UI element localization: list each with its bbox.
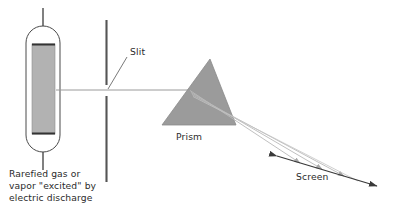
prism-label: Prism [176, 131, 202, 142]
discharge-tube-group [26, 8, 60, 170]
slit-leader-line [108, 57, 127, 89]
source-caption-group: Rarefied gas or vapor "excited" by elect… [9, 168, 97, 203]
source-caption-line-1: Rarefied gas or [9, 168, 80, 179]
source-caption-line-3: electric discharge [9, 192, 93, 203]
dispersed-ray-4 [193, 97, 358, 182]
source-caption-line-2: vapor "excited" by [9, 180, 97, 191]
spectroscope-diagram: Slit Prism Screen Rarefied gas or vapor … [0, 0, 395, 211]
slit-group: Slit [107, 20, 146, 182]
prism-group: Prism [162, 59, 236, 142]
diagram-canvas: Slit Prism Screen Rarefied gas or vapor … [0, 0, 395, 211]
screen-group: Screen [277, 156, 377, 186]
prism-triangle [162, 59, 236, 125]
dispersed-ray-2 [191, 93, 322, 170]
tube-gas-column [32, 44, 55, 134]
slit-label: Slit [130, 46, 145, 57]
screen-label: Screen [296, 171, 329, 182]
